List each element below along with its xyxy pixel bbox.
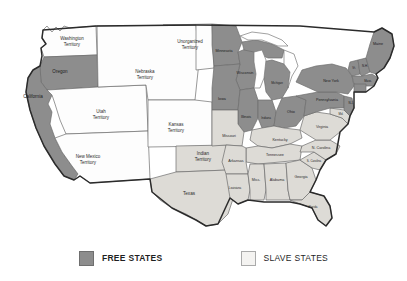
region-indian-territory[interactable] (176, 145, 228, 172)
region-kansas-territory[interactable] (148, 100, 212, 147)
free-states-label: FREE STATES (102, 253, 163, 263)
legend-item-free-states: FREE STATES (79, 251, 163, 266)
map-legend: FREE STATES SLAVE STATES (0, 243, 407, 273)
region-connecticut[interactable] (354, 84, 366, 92)
map-canvas: Washington Territory Oregon California U… (0, 0, 407, 281)
map-regions (26, 24, 394, 226)
lake-michigan (254, 50, 266, 88)
slave-states-label: SLAVE STATES (264, 253, 329, 263)
region-iowa[interactable] (212, 64, 240, 110)
region-maine[interactable] (366, 28, 394, 74)
region-illinois[interactable] (238, 88, 258, 132)
region-minnesota[interactable] (212, 24, 242, 66)
region-ohio[interactable] (274, 96, 306, 128)
region-utah-territory[interactable] (47, 85, 148, 134)
legend-item-slave-states: SLAVE STATES (241, 251, 329, 266)
region-washington-territory[interactable] (41, 26, 97, 57)
slave-states-swatch-icon (241, 251, 256, 266)
free-states-swatch-icon (79, 251, 94, 266)
historical-us-map: Washington Territory Oregon California U… (0, 0, 407, 281)
region-oregon[interactable] (40, 55, 98, 90)
region-new-york[interactable] (296, 64, 354, 94)
region-arkansas[interactable] (222, 145, 248, 174)
region-mississippi[interactable] (248, 164, 266, 200)
region-indiana[interactable] (258, 100, 276, 128)
